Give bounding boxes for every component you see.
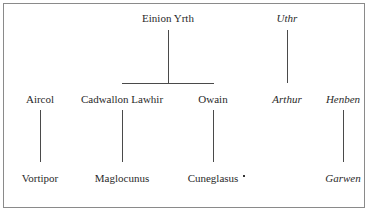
connector-aircol-vortipor [40, 110, 41, 162]
node-henben: Henben [326, 93, 360, 105]
node-arthur: Arthur [272, 93, 301, 105]
node-cadwallon-lawhir: Cadwallon Lawhir [81, 93, 163, 105]
connector-cadwallon-maglocunus [122, 110, 123, 162]
node-owain: Owain [198, 93, 227, 105]
node-aircol: Aircol [26, 93, 54, 105]
node-garwen: Garwen [325, 172, 360, 184]
node-cuneglasus: Cuneglasus [188, 172, 239, 184]
node-maglocunus: Maglocunus [95, 172, 149, 184]
connector-einion-sons-bar [122, 83, 214, 84]
cuneglasus-marker [243, 175, 245, 177]
node-vortipor: Vortipor [22, 172, 58, 184]
connector-owain-cuneglasus [213, 110, 214, 162]
connector-einion-down [168, 30, 169, 83]
node-einion-yrth: Einion Yrth [142, 12, 194, 24]
connector-uthr-arthur [287, 30, 288, 83]
connector-henben-garwen [343, 110, 344, 162]
node-uthr: Uthr [277, 12, 298, 24]
